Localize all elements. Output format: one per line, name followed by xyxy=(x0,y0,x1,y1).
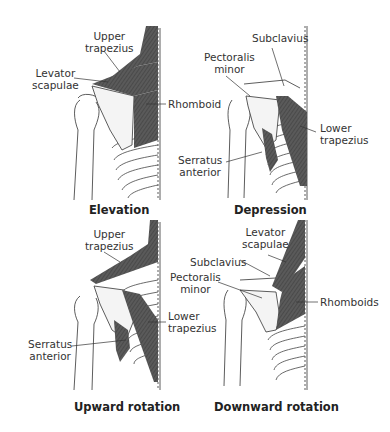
label-levator-scapulae: Levator scapulae xyxy=(32,67,79,91)
label-line: Upper xyxy=(85,30,134,42)
label-serratus-anterior: Serratus anterior xyxy=(178,154,222,178)
label-subclavius: Subclavius xyxy=(252,32,308,44)
label-line: minor xyxy=(204,63,255,75)
label-line: scapulae xyxy=(32,79,79,91)
label-upper-trapezius: Upper trapezius xyxy=(85,30,134,54)
label-upper-trapezius: Upper trapezius xyxy=(85,228,134,252)
label-pectoralis-minor: Pectoralis minor xyxy=(204,51,255,75)
label-line: Pectoralis xyxy=(170,271,221,283)
panel-title-elevation: Elevation xyxy=(89,203,149,217)
label-line: Serratus xyxy=(28,338,72,350)
rhomboid-muscle xyxy=(134,90,158,148)
label-lower-trapezius: Lower trapezius xyxy=(168,310,217,334)
label-line: Levator xyxy=(242,226,289,238)
label-lower-trapezius: Lower trapezius xyxy=(320,122,369,146)
label-line: Upper xyxy=(85,228,134,240)
label-serratus-anterior: Serratus anterior xyxy=(28,338,72,362)
label-line: Serratus xyxy=(178,154,222,166)
label-line: trapezius xyxy=(85,42,134,54)
label-rhomboids: Rhomboids xyxy=(320,296,379,308)
label-line: anterior xyxy=(28,350,72,362)
label-rhomboid: Rhomboid xyxy=(168,98,221,110)
label-line: scapulae xyxy=(242,238,289,250)
label-pectoralis-minor: Pectoralis minor xyxy=(170,271,221,295)
label-levator-scapulae: Levator scapulae xyxy=(242,226,289,250)
label-line: Pectoralis xyxy=(204,51,255,63)
panel-title-depression: Depression xyxy=(234,203,307,217)
label-line: anterior xyxy=(178,166,222,178)
anatomy-illustration xyxy=(0,0,390,432)
panel-title-upward-rotation: Upward rotation xyxy=(74,400,180,414)
panel-title-downward-rotation: Downward rotation xyxy=(214,400,339,414)
label-line: Lower xyxy=(320,122,369,134)
label-line: trapezius xyxy=(85,240,134,252)
label-line: Levator xyxy=(32,67,79,79)
label-subclavius: Subclavius xyxy=(190,256,246,268)
label-line: Lower xyxy=(168,310,217,322)
label-line: trapezius xyxy=(320,134,369,146)
label-line: minor xyxy=(170,283,221,295)
label-line: trapezius xyxy=(168,322,217,334)
lower-trapezius-muscle xyxy=(276,96,307,186)
